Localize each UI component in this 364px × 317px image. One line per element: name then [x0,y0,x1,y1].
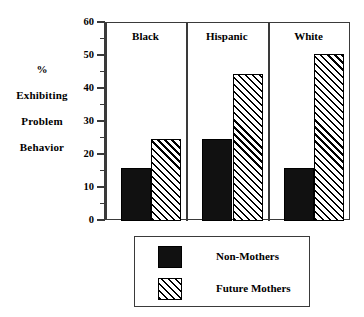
y-tick-label-10: 10 [64,182,94,192]
y-tick-major-20 [97,153,105,155]
y-tick-minor-35 [100,104,105,106]
y-axis-title: % Exhibiting Problem Behavior [0,56,84,160]
y-tick-label-50: 50 [64,50,94,60]
y-tick-label-0: 0 [64,215,94,225]
panel-divider-1 [186,23,188,221]
group-label-white: White [269,30,349,42]
y-tick-minor-55 [100,38,105,40]
bar-white-non-mothers [284,168,314,221]
y-tick-minor-15 [100,170,105,172]
y-tick-minor-5 [100,203,105,205]
plot-area [106,22,350,220]
bar-black-future-mothers [151,139,181,222]
bar-hispanic-future-mothers [233,74,263,221]
group-label-black: Black [106,30,185,42]
y-tick-major-40 [97,87,105,89]
y-tick-minor-45 [100,71,105,73]
solid-black-swatch [158,246,182,268]
y-tick-major-0 [97,219,105,221]
y-tick-major-50 [97,54,105,56]
legend-label-non-mothers: Non-Mothers [216,250,279,262]
group-label-hispanic: Hispanic [187,30,268,42]
y-tick-label-40: 40 [64,83,94,93]
legend-label-future-mothers: Future Mothers [216,282,291,294]
hatched-swatch [158,278,182,300]
y-tick-major-60 [97,21,105,23]
y-tick-major-10 [97,186,105,188]
y-tick-label-20: 20 [64,149,94,159]
y-tick-label-60: 60 [64,17,94,27]
bar-hispanic-non-mothers [202,139,232,222]
y-tick-major-30 [97,120,105,122]
y-tick-minor-25 [100,137,105,139]
bar-white-future-mothers [314,54,344,221]
panel-divider-2 [268,23,270,221]
chart-legend: Non-Mothers Future Mothers [134,236,310,307]
bar-black-non-mothers [121,168,151,221]
y-tick-label-30: 30 [64,116,94,126]
